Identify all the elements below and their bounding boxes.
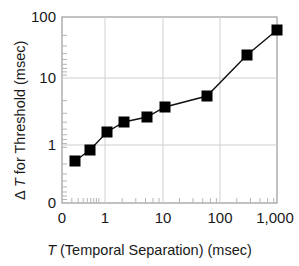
x-axis-label-symbol: T <box>47 242 56 258</box>
y-axis-label-symbol: T <box>12 178 28 187</box>
y-axis-label-prefix: Δ <box>12 187 28 200</box>
data-point-marker <box>202 91 213 102</box>
data-point-marker <box>242 50 253 61</box>
data-point-marker <box>70 156 81 167</box>
data-point-marker <box>102 127 113 138</box>
data-point-marker <box>85 145 96 156</box>
xtick-label-1: 1 <box>85 210 125 225</box>
ytick-label-100: 100 <box>12 9 56 24</box>
y-axis-label-rest: for Threshold (msec) <box>12 41 28 179</box>
y-axis-label: Δ T for Threshold (msec) <box>12 41 28 200</box>
plot-area <box>0 0 299 266</box>
data-point-marker <box>272 25 283 36</box>
data-point-marker <box>160 102 171 113</box>
xtick-label-10: 10 <box>143 210 183 225</box>
chart-figure: 100 10 1 0 0 1 10 100 1,000 Δ T for Thre… <box>0 0 299 266</box>
data-point-marker <box>119 117 130 128</box>
x-axis-label-rest: (Temporal Separation) (msec) <box>56 242 252 258</box>
xtick-label-100: 100 <box>200 210 240 225</box>
data-point-marker <box>142 112 153 123</box>
x-axis-label: T (Temporal Separation) (msec) <box>0 242 299 258</box>
xtick-label-0: 0 <box>42 210 82 225</box>
xtick-label-1000: 1,000 <box>252 210 298 225</box>
